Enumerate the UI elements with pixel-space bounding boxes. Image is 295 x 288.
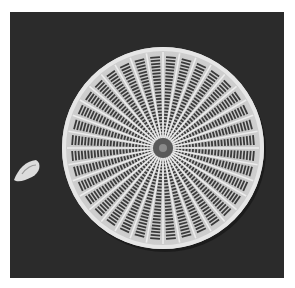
diatom-image [0, 0, 295, 288]
debris-particle [14, 160, 39, 181]
diatom-valve [62, 47, 266, 252]
